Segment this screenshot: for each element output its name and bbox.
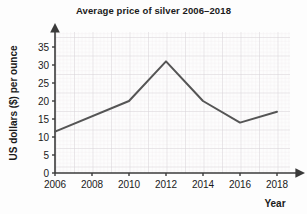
x-tick-label-2010: 2010	[118, 179, 141, 190]
y-axis: 0 5 10 15 20 25 30 35	[38, 31, 55, 179]
y-tick-label-5: 5	[43, 150, 49, 161]
x-axis: 2006 2008 2010 2012 2014 2016 2018	[44, 173, 297, 190]
x-tick-label-2014: 2014	[192, 179, 215, 190]
silver-price-line-chart: Average price of silver 2006–2018	[0, 0, 307, 214]
x-tick-label-2012: 2012	[155, 179, 178, 190]
y-tick-label-35: 35	[38, 42, 50, 53]
x-tick-label-2018: 2018	[266, 179, 289, 190]
y-axis-title: US dollars ($) per ounce	[8, 45, 19, 160]
y-tick-label-15: 15	[38, 114, 50, 125]
y-tick-label-25: 25	[38, 78, 50, 89]
plot-area: 0 5 10 15 20 25 30 35 2006 2008 2010 201…	[0, 0, 307, 214]
x-tick-label-2008: 2008	[81, 179, 104, 190]
y-tick-label-0: 0	[43, 168, 49, 179]
y-tick-label-10: 10	[38, 132, 50, 143]
y-tick-label-20: 20	[38, 96, 50, 107]
x-tick-label-2006: 2006	[44, 179, 67, 190]
y-tick-label-30: 30	[38, 60, 50, 71]
x-tick-label-2016: 2016	[229, 179, 252, 190]
grid-background	[55, 32, 290, 173]
x-axis-title: Year	[264, 198, 285, 209]
